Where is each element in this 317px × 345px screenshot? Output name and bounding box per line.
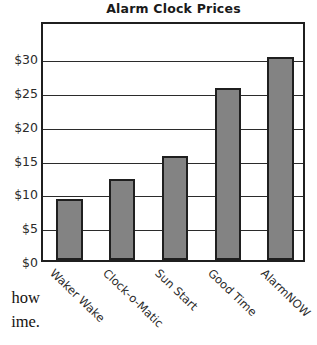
x-axis-tick-label: Sun Start [153, 266, 201, 313]
x-axis-tick-labels: Waker WakeClock-o-MaticSun StartGood Tim… [41, 262, 305, 345]
page-text-fragments: how ime. [0, 286, 42, 334]
x-axis-tick-label: Waker Wake [47, 266, 107, 325]
y-axis-tick-label: $15 [0, 153, 38, 168]
bar-clock-o-matic [109, 179, 135, 260]
bar-sun-start [162, 156, 188, 260]
y-axis-tick-labels: $0$5$10$15$20$25$30 [0, 22, 38, 262]
bar-chart-figure: Alarm Clock Prices $0$5$10$15$20$25$30 W… [0, 0, 317, 345]
y-axis-tick-label: $10 [0, 187, 38, 202]
plot-inner [43, 24, 303, 260]
chart-title: Alarm Clock Prices [41, 1, 306, 16]
x-axis-tick-label: AlarmNOW [258, 266, 313, 320]
x-axis-tick-label: Good Time [206, 266, 260, 319]
gridline [43, 129, 303, 130]
gridline [43, 95, 303, 96]
plot-area [41, 22, 305, 262]
y-axis-tick-label: $0 [0, 255, 38, 270]
page-text-fragment-2: ime. [0, 310, 40, 334]
page-text-fragment-1: how [0, 286, 40, 310]
bar-waker-wake [56, 199, 82, 260]
bar-good-time [215, 88, 241, 260]
bar-alarmnow [267, 57, 293, 260]
y-axis-tick-label: $5 [0, 221, 38, 236]
gridline [43, 61, 303, 62]
y-axis-tick-label: $25 [0, 85, 38, 100]
y-axis-tick-label: $20 [0, 119, 38, 134]
y-axis-tick-label: $30 [0, 52, 38, 67]
